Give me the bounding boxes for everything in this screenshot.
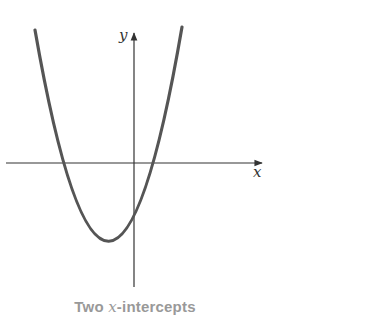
caption-suffix: -intercepts [117, 298, 196, 315]
y-axis-label: y [118, 26, 128, 44]
parabola-curve [35, 27, 182, 241]
caption-prefix: Two [74, 298, 108, 315]
caption-variable: x [108, 298, 117, 316]
x-axis-label: x [253, 163, 262, 181]
parabola-figure: x y [0, 0, 384, 318]
figure-caption: Two x-intercepts [0, 298, 270, 316]
